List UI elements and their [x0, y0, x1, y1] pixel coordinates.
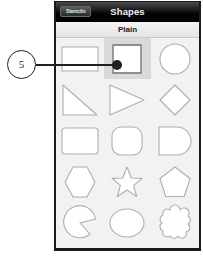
- content-area: Plain: [56, 22, 199, 249]
- rounded-square-icon: [111, 126, 143, 156]
- callout-number: 5: [19, 59, 25, 70]
- cloud-icon: [159, 207, 191, 239]
- section-header-plain: Plain: [56, 22, 199, 38]
- shape-cell-square[interactable]: [104, 38, 152, 79]
- shape-cell-pentagon[interactable]: [151, 161, 199, 202]
- back-button-stencils[interactable]: Stencils: [60, 6, 91, 17]
- star-icon: [111, 166, 143, 198]
- section-title: Plain: [118, 26, 137, 34]
- shape-cell-ellipse[interactable]: [104, 202, 152, 243]
- ellipse-icon: [109, 208, 145, 238]
- shape-cell-circle[interactable]: [151, 38, 199, 79]
- rounded-rectangle-icon: [61, 126, 99, 156]
- shape-cell-pac-man[interactable]: [56, 202, 104, 243]
- shape-cell-rectangle[interactable]: [56, 38, 104, 79]
- pentagon-icon: [159, 166, 191, 198]
- shape-cell-diamond[interactable]: [151, 79, 199, 120]
- shape-grid: [56, 38, 199, 243]
- shape-cell-right-triangle[interactable]: [56, 79, 104, 120]
- square-icon: [112, 44, 142, 74]
- triangle-icon: [109, 84, 145, 116]
- shape-cell-rounded-rectangle[interactable]: [56, 120, 104, 161]
- diamond-icon: [159, 84, 191, 116]
- shape-cell-rounded-square[interactable]: [104, 120, 152, 161]
- shape-cell-d-shape[interactable]: [151, 120, 199, 161]
- right-triangle-icon: [62, 84, 98, 116]
- pac-man-icon: [64, 207, 96, 239]
- navigation-bar: Stencils Shapes: [56, 2, 199, 22]
- device-frame: Stencils Shapes Plain: [54, 1, 201, 251]
- shape-cell-hexagon[interactable]: [56, 161, 104, 202]
- d-shape-icon: [158, 126, 192, 156]
- shape-cell-cloud[interactable]: [151, 202, 199, 243]
- rectangle-icon: [61, 44, 99, 74]
- callout-badge: 5: [7, 50, 36, 79]
- back-button-label: Stencils: [66, 9, 86, 15]
- shape-cell-star[interactable]: [104, 161, 152, 202]
- circle-icon: [159, 43, 191, 75]
- hexagon-icon: [64, 166, 96, 198]
- shape-cell-triangle[interactable]: [104, 79, 152, 120]
